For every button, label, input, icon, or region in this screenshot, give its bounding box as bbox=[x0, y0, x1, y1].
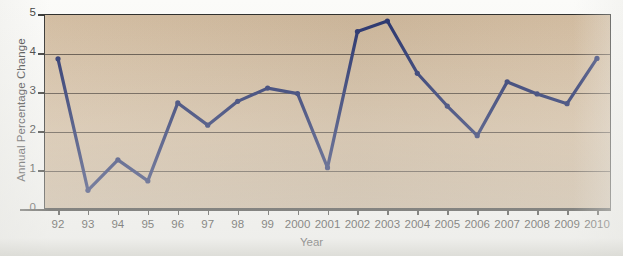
data-point bbox=[55, 56, 60, 61]
data-point bbox=[235, 99, 240, 104]
x-tick-label: 99 bbox=[261, 218, 274, 230]
x-axis-title: Year bbox=[0, 236, 623, 248]
data-point bbox=[175, 100, 180, 105]
x-tick-mark bbox=[58, 209, 60, 215]
x-tick-mark bbox=[447, 209, 449, 215]
y-tick-label: 1 bbox=[6, 162, 36, 174]
series-line bbox=[58, 21, 597, 190]
x-tick-label: 92 bbox=[52, 218, 65, 230]
data-point bbox=[415, 71, 420, 76]
x-tick-label: 2005 bbox=[434, 218, 460, 230]
x-tick-label: 2000 bbox=[285, 218, 311, 230]
x-tick-mark bbox=[208, 209, 210, 215]
x-tick-label: 96 bbox=[171, 218, 184, 230]
data-point bbox=[115, 157, 120, 162]
data-point bbox=[475, 133, 480, 138]
data-point bbox=[85, 188, 90, 193]
y-tick-label: 4 bbox=[6, 45, 36, 57]
x-tick-mark bbox=[268, 209, 270, 215]
data-point bbox=[325, 165, 330, 170]
y-tick-label: 3 bbox=[6, 84, 36, 96]
x-axis-line bbox=[20, 209, 611, 211]
x-tick-mark bbox=[118, 209, 120, 215]
x-tick-label: 2007 bbox=[494, 218, 520, 230]
x-tick-label: 98 bbox=[231, 218, 244, 230]
line-series-layer bbox=[44, 14, 611, 209]
x-tick-mark bbox=[238, 209, 240, 215]
x-tick-label: 2006 bbox=[464, 218, 490, 230]
data-point bbox=[355, 29, 360, 34]
x-tick-label: 2001 bbox=[315, 218, 341, 230]
data-point bbox=[265, 86, 270, 91]
x-tick-mark bbox=[148, 209, 150, 215]
x-tick-mark bbox=[298, 209, 300, 215]
x-tick-mark bbox=[88, 209, 90, 215]
data-point bbox=[505, 79, 510, 84]
x-tick-mark bbox=[507, 209, 509, 215]
data-point bbox=[295, 91, 300, 96]
x-tick-mark bbox=[477, 209, 479, 215]
data-point bbox=[535, 91, 540, 96]
x-tick-mark bbox=[567, 209, 569, 215]
x-tick-label: 2004 bbox=[405, 218, 431, 230]
y-tick-label: 2 bbox=[6, 123, 36, 135]
y-tick-mark bbox=[38, 209, 44, 211]
x-tick-mark bbox=[417, 209, 419, 215]
x-tick-label: 2008 bbox=[524, 218, 550, 230]
x-tick-label: 97 bbox=[201, 218, 214, 230]
y-tick-label: 0 bbox=[6, 201, 36, 213]
data-point bbox=[385, 18, 390, 23]
x-tick-label: 93 bbox=[82, 218, 95, 230]
x-tick-label: 2002 bbox=[345, 218, 371, 230]
chart-page: Annual Percentage Change 012345 92939495… bbox=[0, 0, 623, 256]
data-point bbox=[145, 178, 150, 183]
y-tick-label: 5 bbox=[6, 6, 36, 18]
data-point bbox=[205, 123, 210, 128]
x-tick-mark bbox=[537, 209, 539, 215]
series-markers bbox=[55, 18, 599, 192]
x-tick-label: 95 bbox=[141, 218, 154, 230]
x-tick-mark bbox=[387, 209, 389, 215]
data-point bbox=[594, 56, 599, 61]
y-axis-title: Annual Percentage Change bbox=[15, 15, 27, 205]
x-tick-mark bbox=[178, 209, 180, 215]
data-point bbox=[445, 103, 450, 108]
x-tick-mark bbox=[597, 209, 599, 215]
x-tick-label: 94 bbox=[111, 218, 124, 230]
data-point bbox=[564, 101, 569, 106]
x-tick-mark bbox=[328, 209, 330, 215]
x-tick-mark bbox=[357, 209, 359, 215]
x-tick-label: 2003 bbox=[375, 218, 401, 230]
x-tick-label: 2009 bbox=[554, 218, 580, 230]
x-tick-label: 2010 bbox=[584, 218, 610, 230]
